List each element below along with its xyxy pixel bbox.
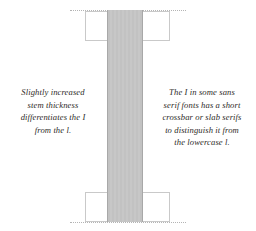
caption-left-line-4: from the l. bbox=[2, 124, 104, 137]
caption-left-line-2: stem thickness bbox=[2, 99, 104, 112]
guide-line-bottom bbox=[70, 222, 186, 223]
caption-right-line-2: serif fonts has a short bbox=[150, 99, 254, 112]
caption-left-line-3: differentiates the I bbox=[2, 111, 104, 124]
caption-right-line-1: The I in some sans bbox=[150, 86, 254, 99]
caption-left: Slightly increased stem thickness differ… bbox=[2, 86, 104, 136]
caption-right-line-4: to distinguish it from bbox=[150, 124, 254, 137]
typography-letterform-diagram: Slightly increased stem thickness differ… bbox=[0, 0, 256, 231]
letter-i-stem bbox=[107, 10, 143, 222]
caption-right-line-3: crossbar or slab serifs bbox=[150, 111, 254, 124]
caption-right-line-5: the lowercase l. bbox=[150, 136, 254, 149]
caption-right: The I in some sans serif fonts has a sho… bbox=[150, 86, 254, 149]
caption-left-line-1: Slightly increased bbox=[2, 86, 104, 99]
